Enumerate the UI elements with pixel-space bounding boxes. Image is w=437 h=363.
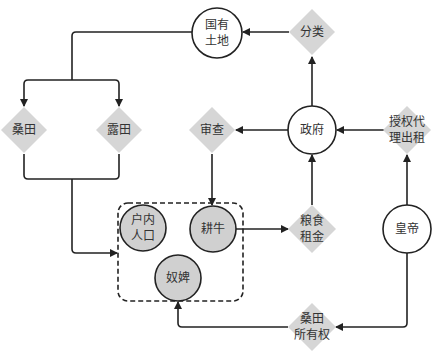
mulberry-ownership-diamond (288, 303, 336, 351)
edge-emperor-to-ownership (336, 253, 407, 327)
edge-fields-merge (24, 154, 119, 179)
edge-merge-to-household-group (72, 179, 117, 253)
slaves-circle (155, 255, 201, 301)
household-population-circle (120, 205, 166, 251)
edge-split-to-open-field (72, 80, 119, 106)
open-field-diamond (96, 107, 142, 153)
classify-diamond (289, 9, 335, 55)
state-land-circle (192, 8, 242, 58)
ox-circle (190, 206, 236, 252)
edge-split-to-mulberry-field (24, 80, 72, 106)
edge-state-land-to-split (72, 32, 192, 80)
grain-rent-diamond (288, 205, 336, 253)
land-allocation-flow-diagram: 国有 土地 分类 桑田 露田 审查 政府 授权代 理出租 户内 人口 耕牛 奴婢… (0, 0, 437, 363)
review-diamond (189, 107, 235, 153)
authorize-lease-diamond (383, 106, 431, 154)
emperor-circle (383, 205, 431, 253)
mulberry-field-diamond (1, 107, 47, 153)
edge-ownership-to-slaves (178, 302, 288, 327)
government-circle (288, 106, 336, 154)
